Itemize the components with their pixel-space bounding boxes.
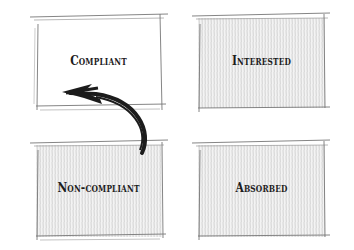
quadrant-label-compliant: Compliant xyxy=(46,53,152,68)
quadrant-diagram xyxy=(0,0,354,250)
quadrant-label-interested: Interested xyxy=(209,53,315,68)
quadrant-label-absorbed: Absorbed xyxy=(209,180,315,195)
quadrant-label-non-compliant: Non-compliant xyxy=(46,180,152,195)
